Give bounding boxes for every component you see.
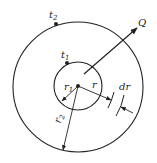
heat-flow-label: Q — [138, 17, 146, 28]
dr-arrow — [121, 107, 133, 113]
dr-inner-arc — [108, 92, 114, 108]
thickness-label: dr — [119, 81, 131, 92]
heat-flow-arrow — [84, 28, 137, 74]
outer-temperature-point — [54, 22, 58, 26]
inner-radius-label: r1 — [64, 81, 73, 94]
dr-outer-arc — [116, 95, 124, 116]
inner-temperature-label: t1 — [61, 49, 70, 62]
radius-label: r — [92, 79, 98, 90]
heat-conduction-diagram: t2 t1 Q r1 r r2 dr — [0, 0, 157, 163]
outer-temperature-label: t2 — [49, 9, 58, 22]
outer-radius-label: r2 — [52, 112, 67, 125]
